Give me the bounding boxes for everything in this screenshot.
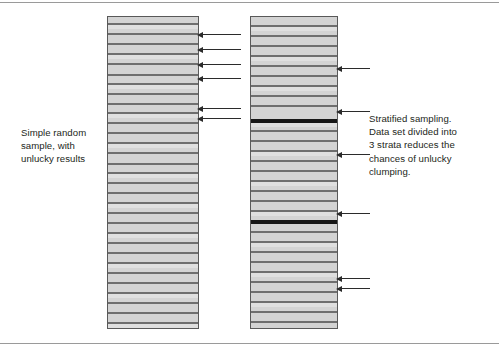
figure-canvas: Simple random sample, with unlucky resul… [0,0,499,352]
row-separator-line [108,23,198,25]
row-separator-line [108,262,198,264]
selection-arrow [197,61,241,68]
simple-random-sample-bar [107,16,199,329]
selection-arrow [336,275,370,282]
row-separator-line [108,74,198,76]
row-tint [108,324,198,328]
arrow-shaft [341,278,370,279]
row-separator-line [108,222,198,224]
row-separator-line [251,321,337,323]
row-separator-line [108,202,198,204]
row-separator-line [108,33,198,35]
row-separator-line [108,322,198,324]
row-separator-line [108,282,198,284]
row-separator-line [251,85,337,87]
row-tint [251,123,337,127]
row-separator-line [251,251,337,253]
row-separator-line [251,180,337,182]
bottom-divider-rule [0,343,499,344]
row-separator-line [251,281,337,283]
arrow-shaft [202,49,241,50]
row-separator-line [108,112,198,114]
row-separator-line [108,212,198,214]
row-separator-line [251,200,337,202]
row-separator-line [108,152,198,154]
row-separator-line [251,140,337,142]
arrow-shaft [341,111,370,112]
row-separator-line [251,65,337,67]
row-tint [108,294,198,298]
top-divider-rule [0,2,499,3]
stratified-sample-bar [250,16,338,329]
row-separator-line [251,261,337,263]
row-separator-line [108,83,198,85]
row-separator-line [251,231,337,233]
row-separator-line [108,292,198,294]
row-separator-line [108,53,198,55]
row-separator-line [108,182,198,184]
selection-arrow [336,108,370,115]
row-separator-line [108,192,198,194]
stratified-sample-caption: Stratified sampling. Data set divided in… [369,112,491,178]
row-separator-line [108,103,198,105]
row-separator-line [251,75,337,77]
row-separator-line [108,43,198,45]
row-separator-line [251,170,337,172]
arrow-shaft [202,108,241,109]
row-separator-line [251,301,337,303]
row-separator-line [251,45,337,47]
selection-arrow [336,151,370,158]
row-separator-line [251,105,337,107]
selection-arrow [336,285,370,292]
arrow-shaft [202,118,241,119]
arrow-shaft [341,154,370,155]
row-separator-line [251,160,337,162]
arrow-shaft [341,68,370,69]
selection-arrow [197,46,241,53]
row-tint [108,114,198,118]
arrow-shaft [341,288,370,289]
row-separator-line [251,291,337,293]
row-separator-line [251,210,337,212]
selection-arrow [336,65,370,72]
strata-divider-line [251,220,337,224]
row-separator-line [108,93,198,95]
row-tint [108,204,198,208]
arrow-shaft [341,213,370,214]
row-tint [251,273,337,277]
row-separator-line [251,130,337,132]
row-separator-line [108,132,198,134]
row-tint [108,25,198,29]
row-tint [108,264,198,268]
row-separator-line [108,312,198,314]
row-separator-line [251,190,337,192]
row-tint [251,152,337,156]
row-tint [251,212,337,216]
row-separator-line [251,55,337,57]
arrow-shaft [202,78,241,79]
row-separator-line [108,63,198,65]
row-tint [251,182,337,186]
row-tint [251,27,337,31]
row-tint [251,303,337,307]
row-tint [108,234,198,238]
row-tint [108,174,198,178]
selection-arrow [197,115,241,122]
row-separator-line [251,241,337,243]
selection-arrow [336,210,370,217]
row-separator-line [251,311,337,313]
row-separator-line [251,95,337,97]
row-separator-line [108,122,198,124]
strata-divider-line [251,119,337,123]
row-separator-line [108,232,198,234]
selection-arrow [197,31,241,38]
arrow-shaft [202,34,241,35]
row-tint [251,57,337,61]
simple-random-sample-caption: Simple random sample, with unlucky resul… [21,126,113,166]
row-tint [108,144,198,148]
row-separator-line [108,272,198,274]
row-separator-line [108,142,198,144]
row-separator-line [251,25,337,27]
arrow-shaft [202,64,241,65]
row-separator-line [251,35,337,37]
